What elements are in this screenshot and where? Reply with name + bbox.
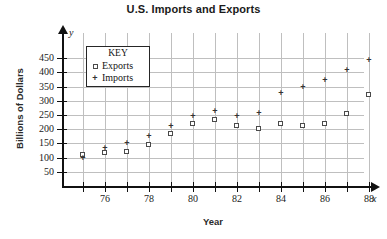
data-point-exports: [168, 131, 173, 136]
data-point-imports: +: [212, 108, 219, 115]
plus-icon: +: [91, 74, 99, 82]
y-axis-line: [62, 32, 64, 187]
legend-label-imports: Imports: [102, 72, 133, 83]
gridline-vertical: [193, 33, 194, 186]
y-axis-tick: [57, 158, 67, 159]
x-axis-tick: [83, 182, 84, 192]
data-point-imports: +: [322, 77, 329, 84]
legend-entry-imports: + Imports: [91, 72, 149, 84]
y-axis-tick: [57, 129, 67, 130]
data-point-imports: +: [278, 90, 285, 97]
data-point-imports: +: [168, 123, 175, 130]
data-point-exports: [190, 121, 195, 126]
x-axis-tick: [369, 182, 370, 192]
y-axis-arrow: [58, 25, 68, 34]
data-point-imports: +: [80, 155, 87, 162]
y-axis-tick-label: 50: [26, 166, 54, 177]
legend-label-exports: Exports: [102, 60, 133, 71]
y-axis-label: Billions of Dollars: [14, 34, 25, 184]
gridline-vertical: [347, 33, 348, 186]
legend-title: KEY: [87, 48, 149, 58]
y-axis-tick-label: 300: [26, 95, 54, 106]
data-point-imports: +: [146, 133, 153, 140]
x-axis-tick-label: 78: [134, 193, 164, 204]
y-axis-tick: [57, 58, 67, 59]
x-axis-tick: [149, 182, 150, 192]
x-axis-tick: [215, 182, 216, 192]
data-point-exports: [344, 111, 349, 116]
data-point-exports: [366, 92, 371, 97]
data-point-imports: +: [124, 140, 131, 147]
y-axis-tick-label: 450: [26, 52, 54, 63]
x-axis-tick: [281, 182, 282, 192]
data-point-exports: [300, 123, 305, 128]
data-point-exports: [212, 117, 217, 122]
y-axis-symbol: y: [69, 27, 73, 38]
chart-figure: U.S. Imports and Exports Billions of Dol…: [0, 0, 387, 239]
gridline-horizontal: [63, 172, 364, 173]
x-axis-tick: [325, 182, 326, 192]
data-point-exports: [278, 121, 283, 126]
gridline-vertical: [281, 33, 282, 186]
x-axis-tick: [347, 182, 348, 192]
data-point-exports: [146, 142, 151, 147]
data-point-imports: +: [344, 67, 351, 74]
legend-entry-exports: Exports: [91, 60, 149, 72]
y-axis-tick: [57, 143, 67, 144]
data-point-exports: [124, 149, 129, 154]
y-axis-tick-label: 200: [26, 123, 54, 134]
x-axis-tick-label: 82: [222, 193, 252, 204]
y-axis-tick: [57, 172, 67, 173]
data-point-exports: [322, 121, 327, 126]
x-axis-tick: [105, 182, 106, 192]
x-axis-tick: [303, 182, 304, 192]
gridline-vertical: [83, 33, 84, 186]
y-axis-tick: [57, 101, 67, 102]
gridline-horizontal: [63, 158, 364, 159]
x-axis-tick: [259, 182, 260, 192]
x-axis-tick-label: 86: [310, 193, 340, 204]
x-axis-tick: [237, 182, 238, 192]
x-axis-tick-label: 80: [178, 193, 208, 204]
x-axis-tick-label: 84: [266, 193, 296, 204]
chart-legend: KEY Exports + Imports: [86, 46, 150, 87]
y-axis-tick: [57, 115, 67, 116]
data-point-imports: +: [102, 145, 109, 152]
gridline-vertical: [237, 33, 238, 186]
gridline-vertical: [171, 33, 172, 186]
x-axis-label: Year: [63, 216, 363, 227]
data-point-exports: [234, 123, 239, 128]
data-point-exports: [256, 126, 261, 131]
y-axis-tick-label: 250: [26, 109, 54, 120]
x-axis-tick-label: 76: [90, 193, 120, 204]
data-point-imports: +: [190, 113, 197, 120]
open-square-icon: [91, 62, 99, 70]
y-axis-tick-label: 150: [26, 137, 54, 148]
y-axis-tick-label: 350: [26, 81, 54, 92]
gridline-horizontal: [63, 101, 364, 102]
gridline-horizontal: [63, 129, 364, 130]
y-axis-tick-label: 100: [26, 152, 54, 163]
x-axis-tick: [127, 182, 128, 192]
x-axis-arrow: [371, 182, 380, 192]
y-axis-tick: [57, 72, 67, 73]
y-axis-tick: [57, 87, 67, 88]
y-axis-tick-label: 400: [26, 66, 54, 77]
gridline-vertical: [325, 33, 326, 186]
data-point-imports: +: [256, 110, 263, 117]
x-axis-tick-label: 88: [354, 193, 384, 204]
x-axis-tick: [171, 182, 172, 192]
data-point-imports: +: [300, 84, 307, 91]
chart-title: U.S. Imports and Exports: [0, 3, 387, 15]
data-point-imports: +: [366, 57, 373, 64]
gridline-vertical: [303, 33, 304, 186]
x-axis-tick: [193, 182, 194, 192]
data-point-imports: +: [234, 113, 241, 120]
